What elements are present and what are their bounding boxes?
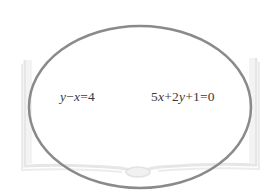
open-book-icon [22, 58, 259, 172]
equation-1-part: =4 [80, 89, 95, 104]
diagram-canvas: y−x=4 5x+2y+1=0 [0, 0, 275, 194]
equation-2-part: +1=0 [185, 89, 215, 104]
equation-2-part: +2 [164, 89, 179, 104]
diagram-graphics [0, 0, 275, 194]
set-ellipse [29, 26, 251, 188]
book-spine-shape [126, 167, 150, 177]
equation-2-part: 5 [151, 89, 158, 104]
equation-2: 5x+2y+1=0 [151, 89, 215, 105]
equation-1: y−x=4 [60, 89, 95, 105]
equation-1-part: − [66, 89, 74, 104]
